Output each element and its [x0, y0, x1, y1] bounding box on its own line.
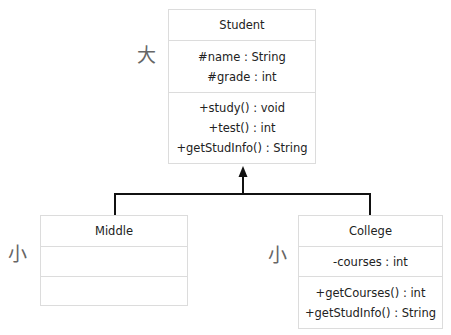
class-student-attributes: #name : String #grade : int [169, 40, 315, 92]
class-name: Student [219, 15, 264, 35]
class-college-methods: +getCourses() : int +getStudInfo() : Str… [299, 276, 442, 328]
method: +getStudInfo() : String [305, 303, 436, 323]
arrowhead-icon [239, 166, 248, 177]
class-name: College [349, 221, 392, 241]
class-middle-name-section: Middle [41, 216, 187, 246]
size-label-student: 大 [137, 40, 156, 67]
method: +getCourses() : int [316, 283, 426, 303]
method: +study() : void [199, 98, 285, 118]
attribute: #name : String [198, 47, 286, 67]
class-college-attributes: -courses : int [299, 246, 442, 276]
class-college-name-section: College [299, 216, 442, 246]
class-middle: Middle [40, 215, 188, 306]
class-name: Middle [95, 221, 133, 241]
method: +getStudInfo() : String [176, 138, 307, 158]
class-college: College -courses : int +getCourses() : i… [298, 215, 443, 329]
size-label-college: 小 [268, 240, 287, 267]
size-label-middle: 小 [8, 239, 27, 266]
attribute: -courses : int [333, 252, 408, 272]
class-student: Student #name : String #grade : int +stu… [168, 9, 316, 164]
class-student-methods: +study() : void +test() : int +getStudIn… [169, 92, 315, 163]
attribute: #grade : int [207, 67, 276, 87]
class-middle-attributes [41, 246, 187, 276]
class-student-name-section: Student [169, 10, 315, 40]
method: +test() : int [209, 118, 276, 138]
class-middle-methods [41, 276, 187, 305]
